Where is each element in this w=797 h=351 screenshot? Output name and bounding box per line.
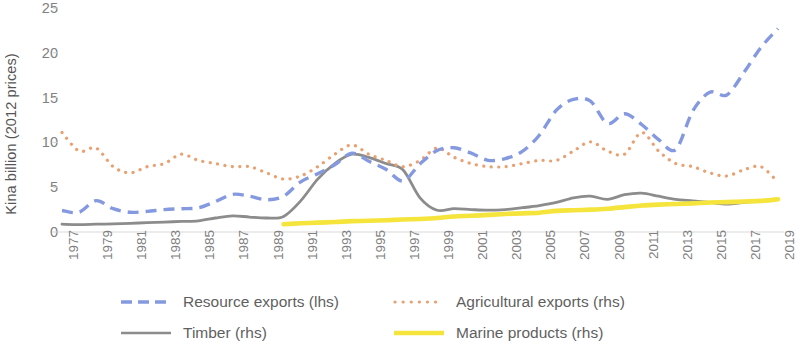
x-axis-tick-label: 2019: [783, 230, 797, 282]
x-axis-tick-label: 1985: [203, 230, 217, 282]
legend-item-marine-products: Marine products (rhs): [393, 319, 603, 347]
x-axis-tick-label: 1993: [340, 230, 354, 282]
series-line: [62, 29, 778, 213]
x-axis-tick-label: 1981: [135, 230, 149, 282]
x-axis: 1977197919811983198519871989199119931995…: [58, 232, 784, 284]
x-axis-tick-label: 1979: [101, 230, 115, 282]
thick-line-icon: [393, 327, 445, 339]
legend-label: Timber (rhs): [183, 325, 267, 341]
x-axis-tick-label: 1989: [272, 230, 286, 282]
x-axis-tick-label: 2003: [510, 230, 524, 282]
y-axis-tick-label: 20: [24, 46, 58, 61]
legend-label: Resource exports (lhs): [183, 294, 339, 310]
x-axis-tick-label: 2013: [681, 230, 695, 282]
plot-area: [58, 8, 784, 232]
y-axis-tick-label: 5: [24, 180, 58, 195]
legend-row: Resource exports (lhs) Agricultural expo…: [120, 288, 680, 316]
chart-legend: Resource exports (lhs) Agricultural expo…: [120, 288, 680, 350]
legend-row: Timber (rhs) Marine products (rhs): [120, 319, 680, 347]
y-axis-tick-label: 10: [24, 135, 58, 150]
x-axis-tick-label: 2011: [647, 230, 661, 282]
y-axis-tick-label: 0: [24, 225, 58, 240]
y-axis-tick-label: 15: [24, 91, 58, 106]
x-axis-tick-label: 2009: [613, 230, 627, 282]
x-axis-tick-label: 1987: [237, 230, 251, 282]
x-axis-tick-label: 2017: [749, 230, 763, 282]
solid-line-icon: [120, 327, 172, 339]
x-axis-tick-label: 2005: [544, 230, 558, 282]
plot-svg: [58, 8, 784, 232]
y-axis: Kina billion (2012 prices) 0510152025: [0, 0, 58, 351]
dashed-line-icon: [120, 296, 172, 308]
x-axis-tick-label: 1995: [374, 230, 388, 282]
legend-label: Agricultural exports (rhs): [456, 294, 625, 310]
legend-item-resource-exports: Resource exports (lhs): [120, 288, 339, 316]
x-axis-tick-label: 2015: [715, 230, 729, 282]
x-axis-tick-label: 1999: [442, 230, 456, 282]
x-axis-tick-label: 1991: [306, 230, 320, 282]
legend-label: Marine products (rhs): [456, 325, 603, 341]
legend-item-timber: Timber (rhs): [120, 319, 267, 347]
legend-item-agricultural-exports: Agricultural exports (rhs): [393, 288, 625, 316]
x-axis-tick-label: 1977: [67, 230, 81, 282]
y-axis-tick-label: 25: [24, 1, 58, 16]
x-axis-tick-label: 2007: [578, 230, 592, 282]
x-axis-tick-label: 1983: [169, 230, 183, 282]
series-line: [62, 132, 778, 182]
y-axis-title: Kina billion (2012 prices): [0, 14, 22, 254]
x-axis-tick-label: 2001: [476, 230, 490, 282]
series-line: [284, 199, 778, 224]
dotted-line-icon: [393, 296, 445, 308]
x-axis-tick-label: 1997: [408, 230, 422, 282]
